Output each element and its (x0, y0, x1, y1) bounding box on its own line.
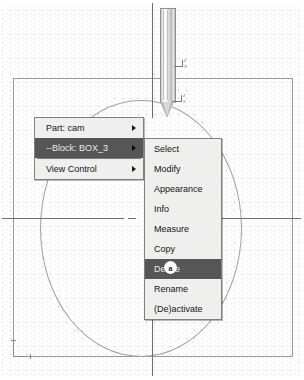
tool-axis-tick-upper (182, 60, 183, 67)
submenu-item-modify[interactable]: Modify (145, 159, 221, 179)
tool-axis-tick-lower (181, 95, 182, 102)
tool-flute-line-2 (167, 10, 168, 100)
page-edge-right (301, 0, 304, 380)
menu-item-block[interactable]: --Block: BOX_3 (35, 138, 143, 158)
menu-item-view-control[interactable]: View Control (35, 159, 143, 179)
submenu-item-deactivate[interactable]: (De)activate (145, 299, 221, 319)
tool-axis-label-z-upper: Z (184, 59, 186, 63)
menu-item-part[interactable]: Part: cam (35, 118, 143, 138)
submenu-item-appearance[interactable]: Appearance (145, 179, 221, 199)
chevron-right-icon (132, 125, 136, 131)
menu-item-block-label: --Block: BOX_3 (46, 144, 108, 153)
submenu-item-modify-label: Modify (154, 165, 181, 174)
datum-horizontal-cap (30, 354, 31, 359)
menu-item-view-control-label: View Control (46, 165, 97, 174)
submenu-item-delete[interactable]: Delete (145, 259, 221, 279)
submenu-item-appearance-label: Appearance (154, 185, 203, 194)
submenu-item-measure[interactable]: Measure (145, 219, 221, 239)
mouse-pointer: a (164, 261, 177, 274)
horizontal-centerline-left (0, 218, 124, 219)
submenu-item-select-label: Select (154, 145, 179, 154)
block-submenu[interactable]: Select Modify Appearance Info Measure Co… (144, 138, 222, 320)
submenu-item-rename-label: Rename (154, 285, 188, 294)
tool-flute-line-1 (163, 10, 164, 100)
horizontal-centerline-gap (128, 218, 136, 219)
submenu-item-copy-label: Copy (154, 245, 175, 254)
menu-item-part-label: Part: cam (46, 124, 85, 133)
page-edge-left (0, 0, 2, 380)
submenu-item-select[interactable]: Select (145, 139, 221, 159)
tool-axis-label-z-lower: Z (183, 94, 185, 98)
tool-axis-label-x-lower: X (183, 100, 185, 104)
submenu-item-rename[interactable]: Rename (145, 279, 221, 299)
submenu-item-info[interactable]: Info (145, 199, 221, 219)
page-edge-bottom (0, 376, 304, 380)
datum-vertical-cap (11, 340, 16, 341)
tool-tip-highlight (163, 102, 171, 116)
submenu-item-deactivate-label: (De)activate (154, 305, 203, 314)
vertical-centerline-top (152, 0, 153, 118)
tool-axis-label-x-upper: X (184, 65, 186, 69)
submenu-item-copy[interactable]: Copy (145, 239, 221, 259)
cad-application-window: Z X Z X Part: cam --Block: BOX_3 View Co… (0, 0, 304, 380)
submenu-item-measure-label: Measure (154, 225, 189, 234)
primary-context-menu[interactable]: Part: cam --Block: BOX_3 View Control (34, 117, 144, 180)
chevron-right-icon (132, 166, 136, 172)
page-edge-top (0, 0, 304, 3)
datum-vertical-mark (13, 340, 14, 356)
horizontal-centerline-right (222, 218, 304, 219)
chevron-right-icon (132, 145, 136, 151)
tool-flute-line-3 (171, 10, 172, 100)
mouse-pointer-glyph: a (164, 264, 177, 271)
submenu-item-info-label: Info (154, 205, 169, 214)
